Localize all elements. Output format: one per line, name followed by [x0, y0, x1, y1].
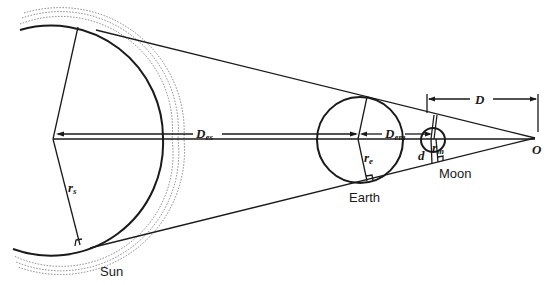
- d-arrow-left: [428, 97, 435, 102]
- r-m-label: rm: [432, 140, 444, 156]
- sun-radius-top: [53, 27, 78, 139]
- moon-radius-top: [431, 115, 434, 139]
- r-s-label: rs: [68, 180, 77, 196]
- r-e-label: re: [364, 150, 373, 166]
- d-em-arrow-left: [360, 132, 367, 137]
- right-angle-marker-sun: [75, 239, 82, 246]
- sun-earth-moon-diagram: Des re Earth Dem d rm Moon D O rs Sun: [0, 0, 552, 285]
- d-es-arrow-left: [56, 132, 64, 137]
- lower-tangent: [90, 138, 535, 248]
- d-es-arrow-right: [350, 132, 358, 137]
- right-angle-marker-moon: [438, 156, 443, 161]
- sun-label: Sun: [100, 264, 123, 279]
- earth-label: Earth: [349, 190, 380, 205]
- d-small-label: d: [418, 148, 425, 163]
- d-es-label: Des: [195, 126, 213, 142]
- sun-limb: [13, 26, 163, 256]
- moon-label: Moon: [439, 166, 472, 181]
- origin-label: O: [532, 142, 542, 157]
- moon-radius-top-2: [434, 115, 437, 139]
- sun-corona: [14, 8, 185, 275]
- d-label: D: [474, 92, 485, 107]
- d-arrow-right: [530, 97, 537, 102]
